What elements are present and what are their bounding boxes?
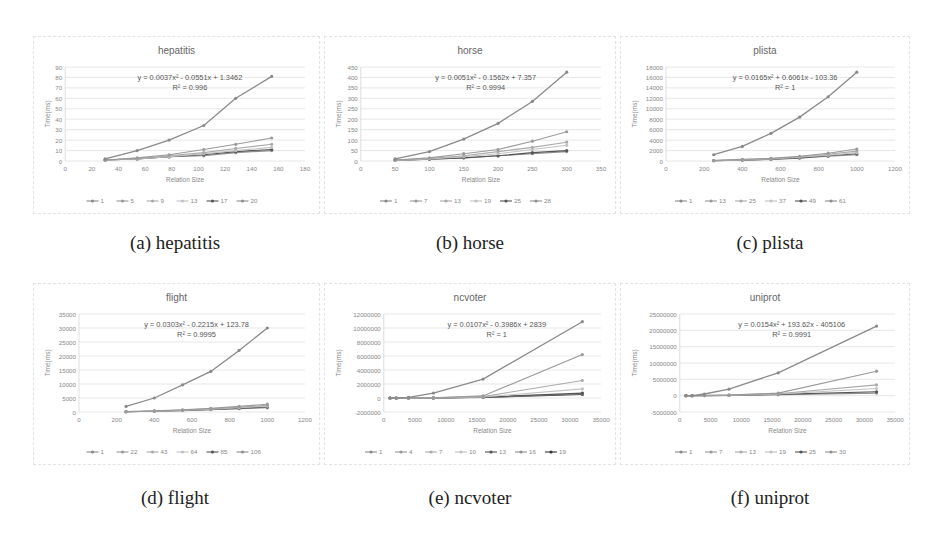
x-tick-label: 200 xyxy=(493,165,504,172)
data-point xyxy=(875,390,878,393)
y-tick-label: 10 xyxy=(55,147,62,154)
svg-text:61: 61 xyxy=(839,197,846,204)
data-point xyxy=(855,71,858,74)
data-point xyxy=(827,152,830,155)
data-point xyxy=(827,95,830,98)
trendline-r2: R² = 1 xyxy=(775,83,795,92)
data-point xyxy=(727,393,730,396)
y-tick-label: 70 xyxy=(55,84,62,91)
data-point xyxy=(727,388,730,391)
data-point xyxy=(388,396,391,399)
x-tick-label: 5000 xyxy=(408,416,422,423)
y-tick-label: 6000 xyxy=(649,126,663,133)
legend-item-13: 13 xyxy=(705,197,726,204)
x-tick-label: 200 xyxy=(699,165,710,172)
legend-item-13: 13 xyxy=(177,197,198,204)
data-point xyxy=(168,153,171,156)
y-tick-label: 100 xyxy=(347,137,358,144)
y-tick-label: 15000 xyxy=(59,367,77,374)
x-axis-label: Relation Size xyxy=(166,176,205,183)
x-axis-label: Relation Size xyxy=(768,427,807,434)
svg-text:16: 16 xyxy=(529,448,536,455)
y-tick-label: 16000 xyxy=(646,74,664,81)
svg-text:13: 13 xyxy=(499,448,506,455)
data-point xyxy=(769,157,772,160)
svg-text:1: 1 xyxy=(689,197,693,204)
data-point xyxy=(202,151,205,154)
data-point xyxy=(428,156,431,159)
y-tick-label: 20000 xyxy=(59,353,77,360)
x-tick-label: 100 xyxy=(424,165,435,172)
data-point xyxy=(270,146,273,149)
y-tick-label: -2000000 xyxy=(355,409,382,416)
legend-item-1: 1 xyxy=(675,197,693,204)
svg-text:19: 19 xyxy=(779,448,786,455)
y-axis-label: Time(ms) xyxy=(44,349,52,376)
data-point xyxy=(181,408,184,411)
legend-item-1: 1 xyxy=(87,197,105,204)
y-tick-label: 30 xyxy=(55,126,62,133)
legend-item-30: 30 xyxy=(825,448,846,455)
chart-flight: flight0500010000150002000025000300003500… xyxy=(34,284,319,464)
x-tick-label: 0 xyxy=(359,165,363,172)
trendline-equation: y = 0.0107x² - 0.3986x + 2839 xyxy=(447,320,546,329)
data-point xyxy=(777,391,780,394)
svg-text:10: 10 xyxy=(469,448,476,455)
svg-text:20: 20 xyxy=(251,197,258,204)
data-point xyxy=(531,151,534,154)
data-point xyxy=(270,75,273,78)
x-tick-label: 50 xyxy=(392,165,399,172)
caption-c: (c) plista xyxy=(620,232,920,254)
svg-text:9: 9 xyxy=(161,197,165,204)
chart-title: hepatitis xyxy=(158,45,195,56)
x-tick-label: 0 xyxy=(63,165,67,172)
chart-panel-hepatitis: hepatitis0102030405060708090020406080100… xyxy=(33,36,320,214)
y-tick-label: 35000 xyxy=(59,311,77,318)
x-axis-label: Relation Size xyxy=(473,427,512,434)
svg-text:1: 1 xyxy=(394,197,398,204)
chart-horse: horse05010015020025030035040045005010015… xyxy=(325,37,615,213)
chart-panel-flight: flight0500010000150002000025000300003500… xyxy=(33,283,320,465)
data-point xyxy=(684,394,687,397)
data-point xyxy=(266,326,269,329)
caption-d: (d) flight xyxy=(25,487,325,509)
x-tick-label: 35000 xyxy=(592,416,610,423)
legend-item-7: 7 xyxy=(410,197,428,204)
svg-text:28: 28 xyxy=(544,197,551,204)
y-tick-label: 400 xyxy=(347,74,358,81)
y-tick-label: 250 xyxy=(347,105,358,112)
legend-item-13: 13 xyxy=(485,448,506,455)
x-tick-label: 40 xyxy=(115,165,122,172)
data-point xyxy=(741,158,744,161)
svg-text:13: 13 xyxy=(749,448,756,455)
trendline-equation: y = 0.0303x² - 0.2215x + 123.78 xyxy=(144,320,249,329)
y-tick-label: 300 xyxy=(347,95,358,102)
legend-item-13: 13 xyxy=(440,197,461,204)
y-tick-label: 50 xyxy=(351,147,358,154)
y-tick-label: 2000 xyxy=(649,147,663,154)
y-tick-label: 12000000 xyxy=(353,311,381,318)
y-tick-label: 10000000 xyxy=(353,325,381,332)
data-point xyxy=(136,149,139,152)
svg-text:37: 37 xyxy=(779,197,786,204)
legend-item-37: 37 xyxy=(765,197,786,204)
x-tick-label: 600 xyxy=(775,165,786,172)
legend-item-1: 1 xyxy=(675,448,693,455)
legend-item-25: 25 xyxy=(735,197,756,204)
svg-text:7: 7 xyxy=(439,448,443,455)
x-tick-label: 800 xyxy=(814,165,825,172)
legend-item-1: 1 xyxy=(380,197,398,204)
y-tick-label: 450 xyxy=(347,64,358,71)
chart-panel-ncvoter: ncvoter-20000000200000040000006000000800… xyxy=(324,283,616,465)
data-point xyxy=(712,153,715,156)
legend-item-61: 61 xyxy=(825,197,846,204)
data-point xyxy=(581,379,584,382)
data-point xyxy=(481,394,484,397)
y-tick-label: 15000000 xyxy=(649,343,677,350)
x-tick-label: 25000 xyxy=(530,416,548,423)
data-point xyxy=(581,353,584,356)
data-point xyxy=(565,71,568,74)
chart-panel-horse: horse05010015020025030035040045005010015… xyxy=(324,36,616,214)
x-tick-label: 300 xyxy=(562,165,573,172)
data-point xyxy=(270,143,273,146)
